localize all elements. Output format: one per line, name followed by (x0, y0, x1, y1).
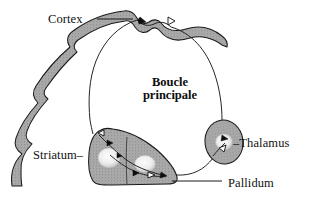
label-cortex: Cortex (48, 12, 83, 27)
main-loop-title: Boucle principale (118, 76, 222, 102)
striatum-nucleus (98, 148, 120, 168)
label-pallidum: Pallidum (228, 176, 274, 191)
label-thalamus: –Thalamus (233, 136, 289, 151)
label-striatum: Striatum– (33, 148, 83, 163)
main-loop-title-line2: principale (118, 89, 222, 102)
